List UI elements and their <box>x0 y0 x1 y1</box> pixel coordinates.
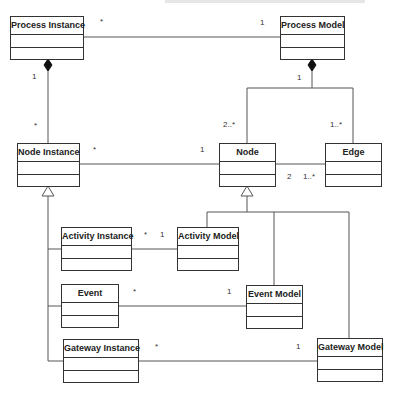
generalization-triangle-icon <box>42 186 54 196</box>
attributes-section <box>18 162 79 175</box>
operations-section <box>220 175 275 187</box>
operations-section <box>18 175 79 187</box>
attributes-section <box>247 304 302 317</box>
attributes-section <box>178 246 238 259</box>
attributes-section <box>220 162 275 175</box>
composition-diamond-icon <box>308 59 316 71</box>
multiplicity-label: * <box>155 343 158 351</box>
attributes-section <box>318 357 382 370</box>
class-name: Activity Instance <box>62 228 131 246</box>
class-name: Gateway Instance <box>64 340 138 358</box>
class-gateway-instance: Gateway Instance <box>63 339 139 383</box>
class-name: Node <box>220 144 275 162</box>
class-activity-instance: Activity Instance <box>61 227 132 271</box>
class-name: Event <box>62 285 118 303</box>
class-name: Event Model <box>247 286 302 304</box>
class-event-model: Event Model <box>246 285 303 329</box>
attributes-section <box>62 246 131 259</box>
generalization-triangle-icon <box>241 186 253 196</box>
operations-section <box>318 370 382 382</box>
class-node: Node <box>219 143 276 187</box>
multiplicity-label: 1..* <box>303 173 315 181</box>
class-name: Process Model <box>281 17 344 35</box>
attributes-section <box>64 358 138 371</box>
operations-section <box>64 371 138 383</box>
operations-section <box>326 175 381 187</box>
class-activity-model: Activity Model <box>177 227 239 271</box>
attributes-section <box>326 162 381 175</box>
multiplicity-label: 1 <box>227 288 231 296</box>
class-name: Activity Model <box>178 228 238 246</box>
multiplicity-label: 1 <box>260 19 264 27</box>
operations-section <box>11 48 83 60</box>
class-event: Event <box>61 284 119 328</box>
class-name: Process Instance <box>11 17 83 35</box>
attributes-section <box>11 35 83 48</box>
multiplicity-label: 1..* <box>330 121 342 129</box>
composition-diamond-icon <box>44 59 52 71</box>
multiplicity-label: 1 <box>297 74 301 82</box>
class-edge: Edge <box>325 143 382 187</box>
operations-section <box>178 259 238 271</box>
multiplicity-label: 1 <box>296 343 300 351</box>
multiplicity-label: * <box>133 288 136 296</box>
class-name: Edge <box>326 144 381 162</box>
class-node-instance: Node Instance <box>17 143 80 187</box>
multiplicity-label: 1 <box>160 231 164 239</box>
operations-section <box>281 48 344 60</box>
multiplicity-label: * <box>144 231 147 239</box>
class-process-instance: Process Instance <box>10 16 84 60</box>
class-name: Gateway Model <box>318 339 382 357</box>
class-name: Node Instance <box>18 144 79 162</box>
attributes-section <box>281 35 344 48</box>
multiplicity-label: * <box>34 122 37 130</box>
operations-section <box>62 259 131 271</box>
multiplicity-label: * <box>100 18 103 26</box>
attributes-section <box>62 303 118 316</box>
multiplicity-label: 2 <box>287 173 291 181</box>
multiplicity-label: 1 <box>200 146 204 154</box>
operations-section <box>247 317 302 329</box>
class-process-model: Process Model <box>280 16 345 60</box>
operations-section <box>62 316 118 328</box>
multiplicity-label: 1 <box>32 73 36 81</box>
multiplicity-label: 2..* <box>223 121 235 129</box>
class-gateway-model: Gateway Model <box>317 338 383 382</box>
multiplicity-label: * <box>93 146 96 154</box>
